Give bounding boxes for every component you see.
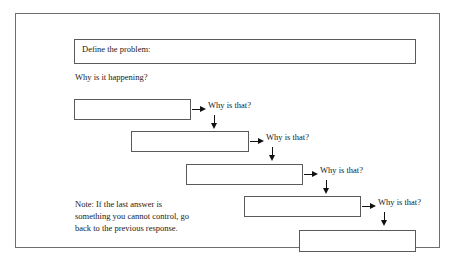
answer-box-4[interactable] xyxy=(244,196,361,217)
why-is-that-label-2: Why is that? xyxy=(266,132,309,143)
why-is-that-label-3: Why is that? xyxy=(320,165,363,176)
why-is-that-label-4: Why is that? xyxy=(378,197,421,208)
worksheet-note: Note: If the last answer is something yo… xyxy=(75,198,191,235)
arrow-head xyxy=(269,155,275,161)
answer-box-1[interactable] xyxy=(74,99,191,120)
arrow-head xyxy=(312,171,318,177)
five-whys-worksheet: Define the problem: Why is it happening?… xyxy=(0,0,454,261)
arrow-head xyxy=(200,106,206,112)
arrow-head xyxy=(370,203,376,209)
worksheet-frame: Define the problem: Why is it happening?… xyxy=(15,13,440,248)
problem-statement-box[interactable]: Define the problem: xyxy=(74,39,416,64)
arrow-head xyxy=(323,188,329,194)
answer-box-2[interactable] xyxy=(131,131,249,152)
why-is-it-happening-prompt: Why is it happening? xyxy=(75,72,147,83)
why-is-that-label-1: Why is that? xyxy=(208,100,251,111)
problem-statement-label: Define the problem: xyxy=(82,44,150,55)
arrow-head xyxy=(258,138,264,144)
arrow-head xyxy=(381,220,387,226)
answer-box-5[interactable] xyxy=(299,230,416,252)
arrow-head xyxy=(211,123,217,129)
answer-box-3[interactable] xyxy=(186,164,303,185)
